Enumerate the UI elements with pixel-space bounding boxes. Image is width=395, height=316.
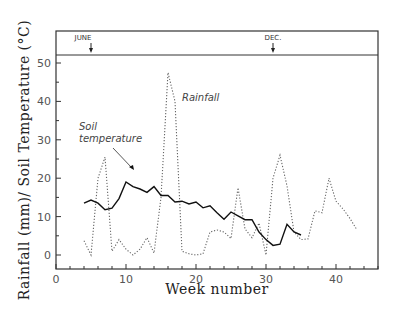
soil-temperature-series — [84, 182, 301, 245]
y-tick-label: 40 — [37, 95, 51, 108]
y-tick-label: 20 — [37, 172, 51, 185]
dec-arrowhead-icon — [271, 48, 275, 53]
x-axis-title: Week number — [165, 281, 269, 297]
y-tick-label: 30 — [37, 134, 51, 147]
june-arrowhead-icon — [89, 48, 93, 53]
x-tick-label: 40 — [329, 273, 343, 286]
y-axis-title: Rainfall (mm)/ Soil Temperature (°C) — [16, 20, 32, 301]
x-tick-label: 0 — [53, 273, 60, 286]
y-tick-label: 10 — [37, 211, 51, 224]
y-tick-label: 50 — [37, 57, 51, 70]
annotation-rainfall: Rainfall — [182, 92, 220, 103]
rainfall-series — [84, 73, 357, 255]
chart: 01020304001020304050 JUNE DEC. Soil temp… — [0, 0, 395, 316]
annotation-temperature: temperature — [79, 133, 142, 144]
month-label-june: JUNE — [74, 34, 92, 42]
y-tick-label: 0 — [44, 249, 51, 262]
annotation-soil: Soil — [79, 121, 97, 132]
plot-frame — [56, 31, 378, 269]
month-label-dec: DEC. — [265, 34, 282, 42]
annotation-pointer-line — [113, 148, 132, 168]
x-tick-label: 10 — [119, 273, 133, 286]
